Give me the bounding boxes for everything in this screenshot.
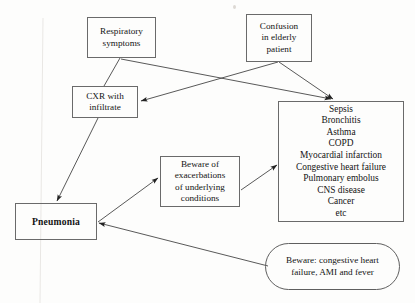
node-pneumonia[interactable]: Pneumonia [15, 203, 97, 240]
node-text-line: Bronchitis [321, 115, 360, 127]
node-respiratory-symptoms[interactable]: Respiratorysymptoms [87, 17, 156, 58]
edge-beware-of-exacerbations-to-differential-list [241, 165, 277, 190]
node-text-line: infiltrate [89, 102, 121, 113]
node-text-line: exacerbations [175, 170, 226, 181]
node-text-line: Pulmonary embolus [303, 173, 378, 185]
node-text-line: Cancer [328, 196, 355, 208]
node-text-line: Congestive heart failure [296, 162, 386, 174]
node-text-line: CNS disease [317, 185, 365, 197]
node-text-line: in elderly [262, 32, 297, 43]
edge-pneumonia-to-beware-of-exacerbations [98, 178, 158, 222]
edge-respiratory-symptoms-to-cxr [104, 58, 120, 86]
node-text-line: Sepsis [329, 104, 353, 116]
edge-beware-chf-to-pneumonia [99, 223, 268, 266]
node-text-line: COPD [328, 138, 353, 150]
diagram-canvas: RespiratorysymptomsConfusionin elderlypa… [0, 0, 415, 303]
node-beware-of-exacerbations[interactable]: Beware ofexacerbationsof underlyingcondi… [160, 156, 240, 207]
node-confusion-in-elderly-patient[interactable]: Confusionin elderlypatient [246, 14, 312, 62]
edge-confusion-to-differential-list [279, 62, 333, 99]
node-text-line: failure, AMI and fever [291, 267, 374, 278]
node-text-line: Beware: congestive heart [286, 255, 379, 266]
node-text-line: of underlying [175, 182, 225, 193]
node-text-line: Respiratory [100, 26, 143, 37]
node-text-line: Asthma [326, 127, 355, 139]
node-beware-congestive-heart-failure-ami-fever[interactable]: Beware: congestive heartfailure, AMI and… [265, 243, 400, 290]
scan-artifact-speck [233, 5, 236, 9]
node-text-line: patient [266, 44, 291, 55]
node-text-line: CXR with [86, 91, 124, 102]
node-differential-diagnosis-list[interactable]: SepsisBronchitisAsthmaCOPDMyocardial inf… [278, 101, 404, 222]
node-text-line: Myocardial infarction [300, 150, 382, 162]
scan-artifact-line [40, 18, 44, 303]
edge-cxr-to-pneumonia [57, 118, 98, 201]
node-text-line: Beware of [181, 159, 219, 170]
node-text-line: symptoms [103, 38, 141, 49]
node-cxr-with-infiltrate[interactable]: CXR withinfiltrate [72, 86, 138, 118]
node-text-line: Confusion [260, 21, 298, 32]
node-text-line: Pneumonia [32, 216, 80, 227]
node-text-line: conditions [181, 193, 219, 204]
node-text-line: etc [336, 208, 347, 220]
edge-respiratory-symptoms-to-differential-list [121, 59, 331, 99]
edge-confusion-to-cxr [141, 62, 278, 101]
